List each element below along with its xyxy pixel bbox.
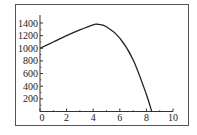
axes <box>40 15 173 112</box>
x-axis-ticks: 0246810 <box>40 109 179 123</box>
x-tick-label: 6 <box>117 112 122 123</box>
x-tick-label: 8 <box>144 112 149 123</box>
x-tick-label: 2 <box>64 112 69 123</box>
y-tick-label: 600 <box>23 68 38 79</box>
data-line <box>40 24 152 111</box>
y-tick-label: 400 <box>23 81 38 92</box>
y-tick-label: 1400 <box>18 18 38 29</box>
x-tick-label: 4 <box>91 112 96 123</box>
x-tick-label: 10 <box>168 112 178 123</box>
y-tick-label: 1200 <box>18 30 38 41</box>
x-tick-label: 0 <box>40 112 45 123</box>
y-tick-label: 1000 <box>18 43 38 54</box>
y-axis-ticks: 200400600800100012001400 <box>18 18 43 106</box>
line-chart: 200400600800100012001400 0246810 <box>0 0 197 135</box>
y-tick-label: 200 <box>23 93 38 104</box>
y-tick-label: 800 <box>23 55 38 66</box>
